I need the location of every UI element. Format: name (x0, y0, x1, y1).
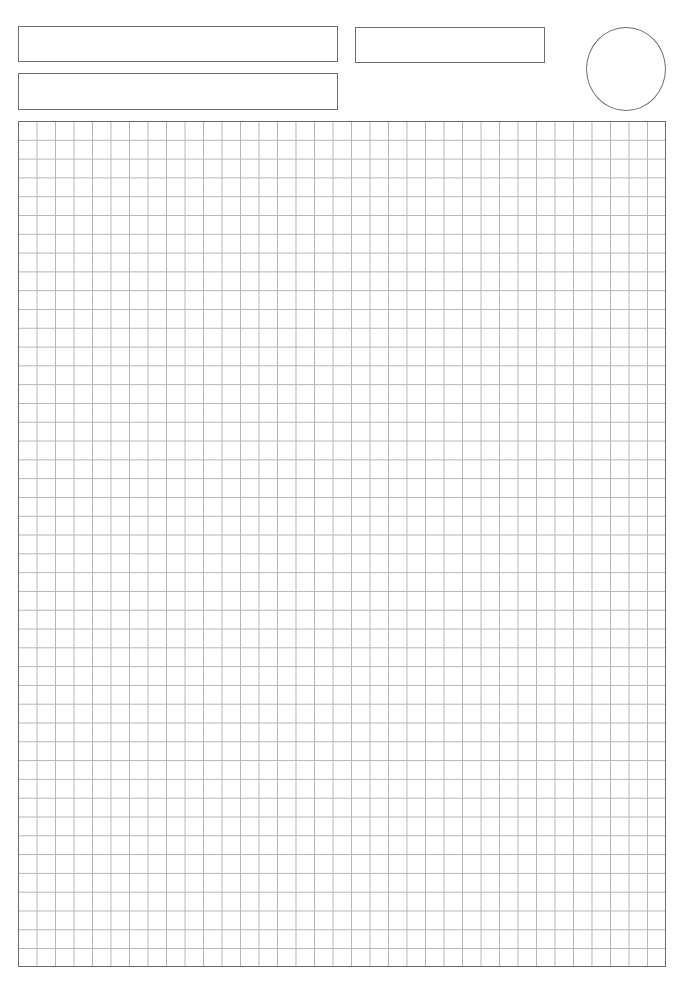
score-circle (586, 27, 666, 111)
header-field-bottom-left[interactable] (18, 73, 338, 110)
graph-paper-grid (18, 121, 666, 967)
header-field-top-right[interactable] (355, 27, 545, 63)
header-field-top-left[interactable] (18, 26, 338, 62)
